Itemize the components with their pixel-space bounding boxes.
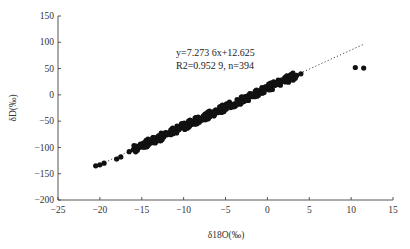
data-point — [142, 145, 147, 150]
x-tick-label: 10 — [346, 205, 356, 215]
data-points — [93, 65, 366, 169]
y-tick-label: 150 — [40, 11, 55, 21]
x-axis-title: δ18O(‰) — [208, 230, 245, 241]
y-tick-label: −100 — [34, 143, 54, 153]
data-point — [243, 98, 248, 103]
x-tick-label: −20 — [92, 205, 107, 215]
x-tick-label: −25 — [51, 205, 66, 215]
regression-stats: R2=0.952 9, n=394 — [176, 60, 254, 71]
data-point — [268, 87, 273, 92]
y-tick-label: −200 — [34, 195, 54, 205]
y-tick-label: −50 — [39, 116, 54, 126]
x-tick-label: −15 — [134, 205, 149, 215]
data-point — [261, 90, 266, 95]
x-tick-label: 5 — [307, 205, 312, 215]
data-point — [101, 161, 106, 166]
data-point — [184, 122, 189, 127]
data-point — [196, 114, 201, 119]
data-point — [239, 94, 244, 99]
y-tick-label: 50 — [45, 64, 55, 74]
y-tick-label: −150 — [34, 169, 54, 179]
y-tick-label: 0 — [49, 90, 54, 100]
x-tick-label: −5 — [220, 205, 230, 215]
data-point — [290, 70, 295, 75]
scatter-chart: 150100500−50−100−150−200−25−20−15−10−505… — [0, 0, 410, 249]
data-point — [222, 106, 227, 111]
data-point — [133, 149, 138, 154]
data-point — [213, 107, 218, 112]
data-point — [155, 138, 160, 143]
data-point — [150, 135, 155, 140]
x-tick-label: 0 — [265, 205, 270, 215]
data-point — [189, 119, 194, 124]
data-point — [298, 71, 303, 76]
data-point — [118, 154, 123, 159]
data-point — [268, 81, 273, 86]
data-point — [353, 65, 358, 70]
data-point — [201, 113, 206, 118]
x-tick-label: 15 — [388, 205, 398, 215]
data-point — [361, 65, 366, 70]
y-tick-label: 100 — [40, 37, 55, 47]
data-point — [249, 91, 254, 96]
y-axis-title: δD(‰) — [8, 94, 19, 121]
data-point — [279, 78, 284, 83]
data-point — [174, 130, 179, 135]
data-point — [286, 80, 291, 85]
data-point — [225, 102, 230, 107]
data-point — [235, 98, 240, 103]
data-point — [147, 142, 152, 147]
regression-equation: y=7.273 6x+12.625 — [176, 47, 255, 58]
data-point — [291, 77, 296, 82]
x-tick-label: −10 — [176, 205, 191, 215]
data-point — [207, 112, 212, 117]
data-point — [263, 84, 268, 89]
data-point — [162, 130, 167, 135]
